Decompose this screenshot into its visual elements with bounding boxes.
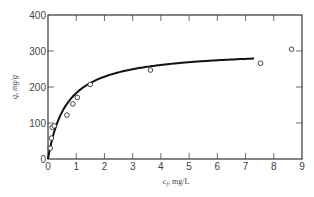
data-point [289, 47, 294, 52]
x-tick-label: 6 [215, 161, 221, 172]
data-point [258, 61, 263, 66]
data-point [88, 82, 93, 87]
x-tick-label: 7 [243, 161, 249, 172]
y-tick-label: 200 [29, 82, 46, 93]
x-axis-ticks: 0123456789 [45, 15, 305, 172]
y-axis-ticks: 0100200300400 [29, 10, 302, 165]
x-tick-label: 9 [299, 161, 305, 172]
x-tick-label: 2 [102, 161, 108, 172]
axes [48, 15, 302, 159]
data-point [65, 113, 70, 118]
data-point [49, 136, 54, 141]
x-tick-label: 3 [130, 161, 136, 172]
x-tick-label: 0 [45, 161, 51, 172]
plot-frame [48, 15, 302, 159]
fitted-curve-line [48, 58, 254, 159]
y-tick-label: 100 [29, 118, 46, 129]
y-tick-label: 0 [40, 154, 46, 165]
y-tick-label: 400 [29, 10, 46, 21]
data-point [75, 95, 80, 100]
data-point [52, 124, 57, 129]
data-point [48, 146, 53, 151]
y-axis-label: q, mg/g [10, 75, 19, 99]
x-axis-label: cf, mg/L [163, 177, 190, 187]
x-axis-label-unit: , mg/L [168, 177, 189, 186]
data-points [48, 47, 294, 151]
y-axis-label-unit: , mg/g [10, 75, 19, 95]
fitted-curve-group [48, 58, 254, 159]
y-tick-label: 300 [29, 46, 46, 57]
x-tick-label: 1 [73, 161, 79, 172]
x-tick-label: 5 [186, 161, 192, 172]
x-tick-label: 4 [158, 161, 164, 172]
data-point [71, 102, 76, 107]
isotherm-chart: 0123456789 0100200300400 cf, mg/L q, mg/… [0, 0, 314, 197]
data-point [148, 68, 153, 73]
x-tick-label: 8 [271, 161, 277, 172]
